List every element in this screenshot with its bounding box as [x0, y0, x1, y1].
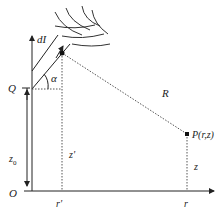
diagram-canvas: dI Q α R P(r,z) z' z z0 O r' r	[0, 0, 224, 215]
label-R: R	[161, 87, 169, 99]
label-z-prime: z'	[68, 149, 76, 160]
label-z: z	[193, 161, 198, 172]
label-r-prime: r'	[56, 198, 63, 209]
label-Q: Q	[8, 82, 16, 94]
alpha-arc	[44, 74, 48, 89]
label-dI: dI	[37, 33, 48, 45]
label-P: P(r,z)	[191, 129, 215, 141]
wire-mesh	[55, 6, 110, 46]
label-r: r	[184, 198, 188, 209]
source-point	[60, 51, 65, 56]
label-O: O	[9, 187, 17, 199]
label-z0: z0	[8, 153, 17, 167]
field-point	[185, 132, 189, 136]
label-alpha: α	[51, 72, 57, 84]
